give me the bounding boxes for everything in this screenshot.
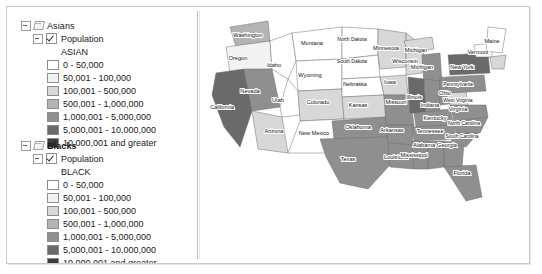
minus-box-icon[interactable]	[33, 34, 43, 44]
legend-class-label: 100,001 - 500,000	[63, 86, 136, 96]
panel-divider[interactable]	[197, 11, 198, 259]
state-shape-iowa	[380, 75, 408, 95]
state-label: Oklahoma	[345, 124, 371, 130]
state-shape-colorado	[298, 89, 344, 121]
legend-swatch	[47, 206, 59, 216]
map-viewer-window: Asians Population ASIAN 0 - 50,000 50,00…	[6, 6, 530, 264]
state-label: Michigan	[411, 64, 433, 70]
state-label: North Carolina	[448, 120, 480, 126]
state-label: Nebraska	[343, 81, 368, 87]
state-label: Ohio	[439, 90, 451, 96]
legend-class-label: 1,000,001 - 5,000,000	[63, 232, 151, 242]
state-label: New Mexico	[299, 130, 329, 136]
checked-checkbox-icon[interactable]	[46, 33, 57, 44]
legend-class-row[interactable]: 1,000,001 - 5,000,000	[7, 230, 197, 243]
state-label: Kansas	[349, 102, 368, 108]
layer-item-population-asians[interactable]: Population	[7, 32, 197, 45]
state-label: Missouri	[386, 99, 407, 105]
minus-box-icon[interactable]	[21, 21, 31, 31]
state-label: Indiana	[421, 102, 440, 108]
table-of-contents-panel[interactable]: Asians Population ASIAN 0 - 50,000 50,00…	[7, 7, 197, 263]
legend-class-label: 1,000,001 - 5,000,000	[63, 112, 151, 122]
legend-class-row[interactable]: 100,001 - 500,000	[7, 84, 197, 97]
checked-checkbox-icon[interactable]	[46, 153, 57, 164]
state-label: Idaho	[267, 62, 281, 68]
legend-swatch	[47, 99, 59, 109]
legend-class-row[interactable]: 5,000,001 - 10,000,000	[7, 243, 197, 256]
map-canvas[interactable]: WashingtonOregonCaliforniaNevadaIdahoMon…	[200, 7, 529, 263]
state-label: Virginia	[449, 106, 468, 112]
legend-class-label: 0 - 50,000	[63, 60, 104, 70]
layer-item-label: Population	[61, 34, 104, 44]
layer-group-header-blacks[interactable]: Blacks	[7, 139, 197, 152]
legend-class-row[interactable]: 5,000,001 - 10,000,000	[7, 123, 197, 136]
legend-class-label: 50,001 - 100,000	[63, 193, 131, 203]
state-label: Arizona	[265, 128, 285, 134]
legend-class-row[interactable]: 0 - 50,000	[7, 178, 197, 191]
field-label: ASIAN	[61, 47, 88, 57]
state-label: Nevada	[240, 88, 260, 94]
state-label: Utah	[272, 97, 284, 103]
legend-classes-asians: 0 - 50,000 50,001 - 100,000 100,001 - 50…	[7, 58, 197, 149]
state-label: Alabama	[413, 142, 436, 148]
state-label: South Dakota	[337, 58, 368, 64]
legend-class-row[interactable]: 0 - 50,000	[7, 58, 197, 71]
state-label: Mississippi	[400, 152, 427, 158]
legend-class-row[interactable]: 50,001 - 100,000	[7, 71, 197, 84]
legend-class-label: 5,000,001 - 10,000,000	[63, 125, 156, 135]
state-label: Minnesota	[373, 45, 400, 51]
layer-glyph-icon	[34, 21, 44, 30]
layer-group-blacks: Blacks Population BLACK 0 - 50,000 50,00…	[7, 139, 197, 263]
legend-swatch	[47, 125, 59, 135]
layer-item-population-blacks[interactable]: Population	[7, 152, 197, 165]
legend-swatch	[47, 219, 59, 229]
state-label: Michigan	[405, 47, 427, 53]
state-label: Texas	[341, 156, 356, 162]
state-label: Iowa	[384, 79, 397, 85]
layer-item-label: Population	[61, 154, 104, 164]
state-shape-idaho	[270, 33, 296, 79]
legend-field-name-asians: ASIAN	[7, 45, 197, 58]
state-shape-newengland	[490, 55, 506, 69]
state-label: Illinois	[406, 94, 422, 100]
minus-box-icon[interactable]	[21, 141, 31, 151]
layer-group-name: Asians	[47, 21, 75, 31]
legend-class-label: 5,000,001 - 10,000,000	[63, 245, 156, 255]
legend-class-label: 50,001 - 100,000	[63, 73, 131, 83]
legend-class-row[interactable]: 500,001 - 1,000,000	[7, 97, 197, 110]
state-label: Tennessee	[416, 128, 443, 134]
layer-group-header-asians[interactable]: Asians	[7, 19, 197, 32]
state-label: Vermont	[468, 49, 489, 55]
state-label: Pennsylvania	[443, 81, 473, 87]
layer-glyph-icon	[34, 141, 44, 150]
legend-class-row[interactable]: 500,001 - 1,000,000	[7, 217, 197, 230]
state-shape-nebraska	[342, 77, 384, 97]
state-label: Georgia	[437, 142, 458, 148]
legend-class-row[interactable]: 50,001 - 100,000	[7, 191, 197, 204]
state-shape-northdakota	[342, 27, 378, 59]
state-label: Montana	[301, 40, 324, 46]
legend-class-row[interactable]: 10,000,001 and greater	[7, 256, 197, 263]
legend-class-label: 500,001 - 1,000,000	[63, 219, 144, 229]
minus-box-icon[interactable]	[33, 154, 43, 164]
legend-swatch	[47, 232, 59, 242]
legend-swatch	[47, 73, 59, 83]
legend-classes-blacks: 0 - 50,000 50,001 - 100,000 100,001 - 50…	[7, 178, 197, 263]
legend-swatch	[47, 258, 59, 264]
state-label: Kentucky	[423, 115, 446, 121]
state-label: Florida	[453, 170, 471, 176]
us-choropleth-map[interactable]: WashingtonOregonCaliforniaNevadaIdahoMon…	[200, 7, 529, 263]
legend-swatch	[47, 112, 59, 122]
legend-swatch	[47, 193, 59, 203]
state-label: Colorado	[307, 99, 330, 105]
legend-swatch	[47, 180, 59, 190]
state-label: South Carolina	[445, 133, 478, 139]
legend-swatch	[47, 60, 59, 70]
legend-class-row[interactable]: 1,000,001 - 5,000,000	[7, 110, 197, 123]
field-label: BLACK	[61, 167, 91, 177]
state-label: Maine	[484, 38, 499, 44]
legend-swatch	[47, 245, 59, 255]
legend-field-name-blacks: BLACK	[7, 165, 197, 178]
legend-class-label: 500,001 - 1,000,000	[63, 99, 144, 109]
legend-class-row[interactable]: 100,001 - 500,000	[7, 204, 197, 217]
